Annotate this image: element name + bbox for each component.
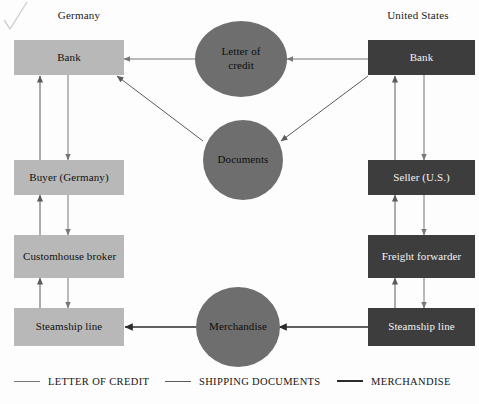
node-letter-of-credit[interactable]: Letter of credit [195, 21, 287, 97]
node-us-freight-forwarder[interactable]: Freight forwarder [368, 235, 475, 278]
node-germany-bank[interactable]: Bank [14, 40, 124, 75]
arrow-documents-to-de-bank [117, 76, 203, 141]
legend-label-shipping-documents: SHIPPING DOCUMENTS [199, 376, 321, 387]
legend-item-letter-of-credit: LETTER OF CREDIT [14, 371, 149, 391]
node-us-steamship-line[interactable]: Steamship line [368, 308, 475, 346]
legend-line-merchandise-icon [337, 380, 363, 382]
region-label-germany: Germany [34, 9, 124, 21]
legend-line-letter-of-credit-icon [14, 381, 40, 382]
legend-item-shipping-documents: SHIPPING DOCUMENTS [165, 371, 321, 391]
legend-line-shipping-documents-icon [165, 381, 191, 382]
node-germany-steamship-line[interactable]: Steamship line [14, 308, 124, 346]
node-germany-buyer[interactable]: Buyer (Germany) [14, 160, 124, 195]
arrow-us-bank-to-documents [281, 76, 368, 141]
node-germany-customhouse-broker[interactable]: Customhouse broker [14, 235, 124, 278]
node-documents[interactable]: Documents [203, 120, 283, 200]
scan-artifact-checkmark [4, 2, 27, 29]
node-merchandise[interactable]: Merchandise [196, 287, 280, 367]
legend-label-merchandise: MERCHANDISE [371, 376, 451, 387]
legend-item-merchandise: MERCHANDISE [337, 371, 451, 391]
node-us-bank[interactable]: Bank [368, 40, 475, 75]
node-us-seller[interactable]: Seller (U.S.) [368, 160, 475, 195]
region-label-united-states: United States [358, 9, 478, 21]
legend: LETTER OF CREDIT SHIPPING DOCUMENTS MERC… [0, 371, 479, 391]
diagram-canvas: Germany United States Bank Buyer (German… [0, 0, 479, 404]
legend-label-letter-of-credit: LETTER OF CREDIT [48, 376, 149, 387]
